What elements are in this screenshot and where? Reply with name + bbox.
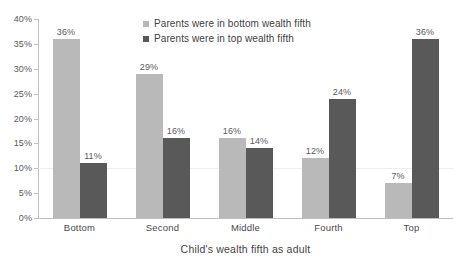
x-axis-category-label: Second [121, 222, 204, 233]
plot-area: 0%5%10%15%20%25%30%35%40% 36%11%29%16%16… [38, 19, 453, 218]
bar-value-label: 24% [333, 87, 351, 97]
y-tick-label: 15% [14, 138, 32, 148]
bar[interactable] [246, 148, 273, 218]
y-tick-label: 5% [19, 188, 32, 198]
legend-swatch-icon [143, 21, 149, 27]
bar-value-label: 29% [140, 62, 158, 72]
x-axis-line [38, 218, 453, 219]
bar-column: 7% [385, 19, 412, 218]
bar-column: 16% [163, 19, 190, 218]
bar[interactable] [412, 39, 439, 218]
bar-value-label: 16% [167, 126, 185, 136]
bar-group: 36%11% [53, 19, 107, 218]
bar-group: 12%24% [302, 19, 356, 218]
bar-value-label: 12% [306, 146, 324, 156]
bar-column: 29% [136, 19, 163, 218]
x-axis-category-label: Top [370, 222, 453, 233]
bar-column: 12% [302, 19, 329, 218]
bar-column: 16% [219, 19, 246, 218]
bar[interactable] [385, 183, 412, 218]
bar-value-label: 36% [416, 27, 434, 37]
bar[interactable] [163, 138, 190, 218]
bar-column: 14% [246, 19, 273, 218]
x-axis-category-labels: BottomSecondMiddleFourthTop [38, 222, 453, 233]
bar-column: 24% [329, 19, 356, 218]
bar-groups: 36%11%29%16%16%14%12%24%7%36% [38, 19, 453, 218]
bar[interactable] [53, 39, 80, 218]
legend-item[interactable]: Parents were in top wealth fifth [143, 31, 311, 46]
bar-value-label: 16% [223, 126, 241, 136]
bar-column: 36% [412, 19, 439, 218]
cropped-caption-strip [0, 268, 459, 276]
legend-item[interactable]: Parents were in bottom wealth fifth [143, 16, 311, 31]
y-tick-mark [34, 218, 38, 219]
x-axis-title: Child's wealth fifth as adult [38, 243, 453, 255]
y-tick-label: 20% [14, 114, 32, 124]
bar-column: 11% [80, 19, 107, 218]
x-axis-category-label: Fourth [287, 222, 370, 233]
bar-group: 7%36% [385, 19, 439, 218]
y-tick-label: 10% [14, 163, 32, 173]
bar[interactable] [302, 158, 329, 218]
bar[interactable] [219, 138, 246, 218]
bar-value-label: 7% [391, 171, 404, 181]
bar-value-label: 14% [250, 136, 268, 146]
bar[interactable] [136, 74, 163, 218]
y-tick-label: 0% [19, 213, 32, 223]
legend-label: Parents were in top wealth fifth [154, 33, 294, 44]
y-tick-label: 40% [14, 14, 32, 24]
legend-label: Parents were in bottom wealth fifth [154, 18, 311, 29]
chart-legend: Parents were in bottom wealth fifthParen… [143, 16, 311, 46]
bar-chart: 0%5%10%15%20%25%30%35%40% 36%11%29%16%16… [0, 0, 459, 276]
bar-column: 36% [53, 19, 80, 218]
bar-value-label: 11% [84, 151, 102, 161]
bar-group: 16%14% [219, 19, 273, 218]
legend-swatch-icon [143, 36, 149, 42]
bar[interactable] [329, 99, 356, 218]
bar[interactable] [80, 163, 107, 218]
y-tick-label: 25% [14, 89, 32, 99]
y-tick-label: 35% [14, 39, 32, 49]
y-tick-label: 30% [14, 64, 32, 74]
bar-value-label: 36% [57, 27, 75, 37]
x-axis-category-label: Bottom [38, 222, 121, 233]
bar-group: 29%16% [136, 19, 190, 218]
x-axis-category-label: Middle [204, 222, 287, 233]
